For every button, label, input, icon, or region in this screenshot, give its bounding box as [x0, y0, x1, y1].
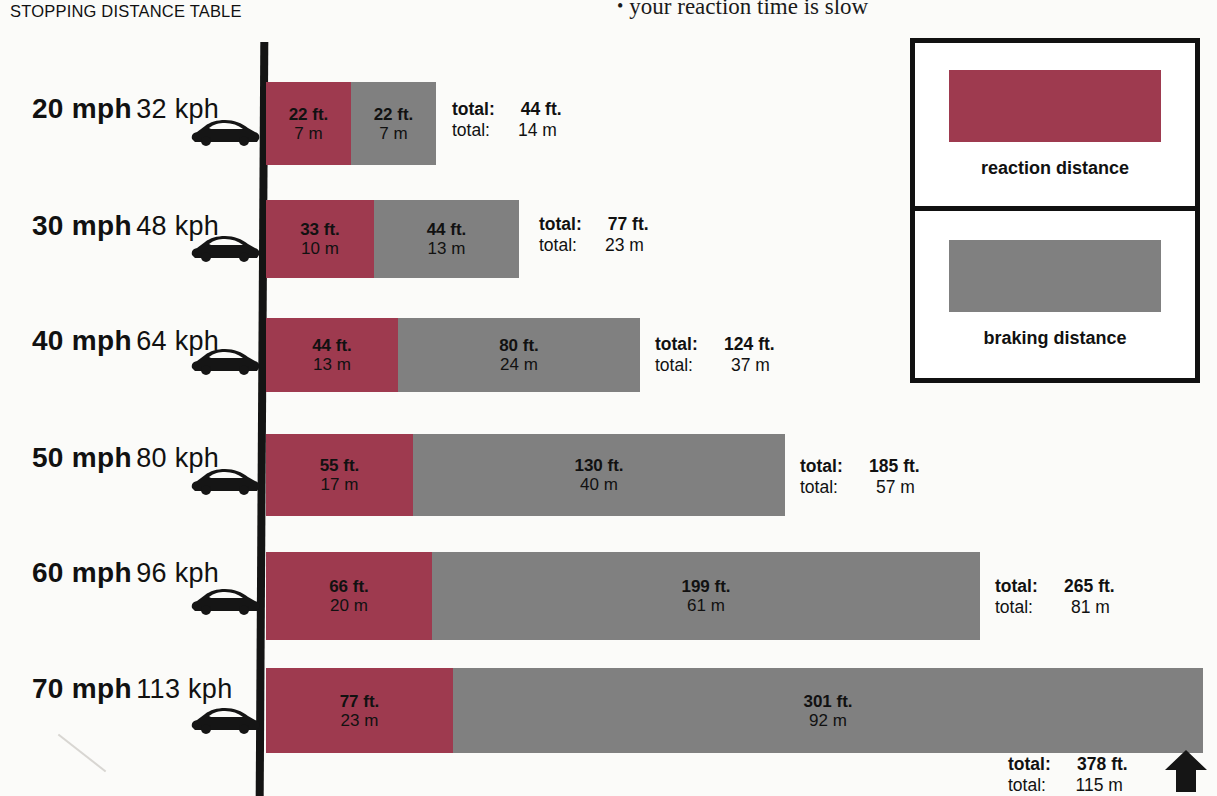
reaction-segment-label: 55 ft. 17 m — [266, 456, 413, 494]
reaction-ft: 66 ft. — [266, 577, 432, 596]
braking-m: 7 m — [351, 124, 436, 143]
braking-m: 24 m — [398, 355, 640, 374]
braking-segment-label: 301 ft. 92 m — [453, 692, 1203, 730]
total-label-30: total: 77 ft. total: 23 m — [539, 214, 649, 256]
braking-segment-label: 44 ft. 13 m — [374, 220, 519, 258]
page-title: STOPPING DISTANCE TABLE — [10, 2, 242, 21]
total-m: 37 m — [698, 355, 770, 376]
legend-swatch-reaction — [949, 70, 1161, 142]
total-prefix: total: — [539, 214, 582, 234]
speed-mph: 50 mph — [32, 442, 132, 473]
total-ft: 77 ft. — [587, 214, 649, 235]
total-label-60: total: 265 ft. total: 81 m — [995, 576, 1115, 618]
top-note-text: your reaction time is slow — [629, 0, 868, 19]
braking-segment: 301 ft. 92 m — [453, 668, 1203, 753]
total-m-line: total: 115 m — [1008, 775, 1128, 796]
reaction-ft: 33 ft. — [266, 220, 374, 239]
bar-50: 55 ft. 17 m 130 ft. 40 m — [266, 434, 785, 516]
page-scratch — [58, 734, 107, 773]
speed-mph: 70 mph — [32, 674, 132, 704]
braking-m: 13 m — [374, 239, 519, 258]
legend-label-braking: braking distance — [983, 328, 1126, 349]
total-ft: 185 ft. — [848, 456, 920, 477]
car-icon — [189, 464, 261, 500]
reaction-m: 17 m — [266, 475, 413, 494]
reaction-segment: 22 ft. 7 m — [266, 82, 351, 165]
braking-segment-label: 130 ft. 40 m — [413, 456, 785, 494]
total-m-line: total: 14 m — [452, 120, 562, 141]
car-icon — [189, 584, 261, 620]
braking-m: 61 m — [432, 596, 980, 615]
total-prefix: total: — [1008, 754, 1051, 774]
up-arrow-icon — [1163, 750, 1209, 792]
reaction-m: 7 m — [266, 124, 351, 143]
bullet-icon: • — [617, 0, 623, 16]
reaction-segment-label: 66 ft. 20 m — [266, 577, 432, 615]
total-prefix: total: — [995, 597, 1033, 617]
total-ft: 44 ft. — [500, 99, 562, 120]
total-prefix: total: — [800, 456, 843, 476]
braking-segment: 130 ft. 40 m — [413, 434, 785, 516]
total-m: 57 m — [843, 477, 915, 498]
braking-segment-label: 22 ft. 7 m — [351, 105, 436, 143]
car-icon — [189, 115, 261, 151]
reaction-ft: 77 ft. — [266, 692, 453, 711]
total-ft: 124 ft. — [703, 334, 775, 355]
reaction-m: 13 m — [266, 355, 398, 374]
reaction-m: 20 m — [266, 596, 432, 615]
legend-swatch-braking — [949, 240, 1161, 312]
braking-m: 92 m — [453, 711, 1203, 730]
braking-ft: 130 ft. — [413, 456, 785, 475]
braking-ft: 301 ft. — [453, 692, 1203, 711]
total-label-70: total: 378 ft. total: 115 m — [1008, 754, 1128, 796]
total-m-line: total: 81 m — [995, 597, 1115, 618]
total-label-50: total: 185 ft. total: 57 m — [800, 456, 920, 498]
speed-mph: 60 mph — [32, 557, 132, 588]
reaction-ft: 55 ft. — [266, 456, 413, 475]
total-m-line: total: 23 m — [539, 235, 649, 256]
reaction-ft: 22 ft. — [266, 105, 351, 124]
total-ft-line: total: 77 ft. — [539, 214, 649, 235]
reaction-segment-label: 22 ft. 7 m — [266, 105, 351, 143]
total-m-line: total: 37 m — [655, 355, 775, 376]
car-icon — [189, 344, 261, 380]
bar-30: 33 ft. 10 m 44 ft. 13 m — [266, 200, 519, 278]
total-prefix: total: — [800, 477, 838, 497]
top-note: •your reaction time is slow — [617, 0, 868, 20]
braking-segment: 22 ft. 7 m — [351, 82, 436, 165]
speed-mph: 30 mph — [32, 210, 132, 241]
total-prefix: total: — [655, 355, 693, 375]
total-ft-line: total: 265 ft. — [995, 576, 1115, 597]
reaction-segment: 44 ft. 13 m — [266, 318, 398, 392]
reaction-m: 23 m — [266, 711, 453, 730]
reaction-segment-label: 44 ft. 13 m — [266, 336, 398, 374]
total-m: 81 m — [1038, 597, 1110, 618]
braking-segment-label: 199 ft. 61 m — [432, 577, 980, 615]
legend: reaction distance braking distance — [910, 38, 1200, 383]
reaction-m: 10 m — [266, 239, 374, 258]
total-m-line: total: 57 m — [800, 477, 920, 498]
braking-segment-label: 80 ft. 24 m — [398, 336, 640, 374]
total-m: 23 m — [582, 235, 644, 256]
reaction-segment: 77 ft. 23 m — [266, 668, 453, 753]
braking-ft: 44 ft. — [374, 220, 519, 239]
braking-segment: 80 ft. 24 m — [398, 318, 640, 392]
total-ft: 378 ft. — [1056, 754, 1128, 775]
total-ft: 265 ft. — [1043, 576, 1115, 597]
reaction-ft: 44 ft. — [266, 336, 398, 355]
legend-label-reaction: reaction distance — [981, 158, 1129, 179]
braking-segment: 199 ft. 61 m — [432, 552, 980, 640]
total-prefix: total: — [995, 576, 1038, 596]
braking-ft: 80 ft. — [398, 336, 640, 355]
braking-ft: 22 ft. — [351, 105, 436, 124]
reaction-segment: 55 ft. 17 m — [266, 434, 413, 516]
total-m: 14 m — [495, 120, 557, 141]
legend-item-braking: braking distance — [915, 211, 1195, 379]
speed-label-70: 70 mph 113 kph — [22, 674, 232, 704]
reaction-segment: 66 ft. 20 m — [266, 552, 432, 640]
speed-kph: 113 kph — [136, 674, 232, 704]
total-ft-line: total: 378 ft. — [1008, 754, 1128, 775]
bar-60: 66 ft. 20 m 199 ft. 61 m — [266, 552, 980, 640]
speed-mph: 20 mph — [32, 93, 132, 124]
speed-mph: 40 mph — [32, 325, 132, 356]
